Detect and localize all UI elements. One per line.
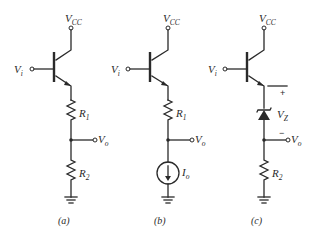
circuit-a: VCC Vi R1 Vo R2 (a): [14, 12, 109, 227]
vo-terminal-c: [286, 138, 290, 142]
io-label-b: Io: [181, 166, 190, 181]
circuit-figure: VCC Vi R1 Vo R2 (a) VCC Vi: [0, 0, 316, 237]
emitter-lead-a: [56, 76, 71, 100]
collector-lead-b: [152, 30, 168, 60]
circuit-c: VCC Vi + VZ − Vo R2 (c): [208, 12, 302, 227]
vo-label-c: Vo: [291, 133, 302, 148]
ground-icon-b: [162, 197, 174, 203]
vcc-label-c: VCC: [259, 12, 277, 27]
r1-label-a: R1: [78, 107, 89, 122]
vi-label-a: Vi: [14, 63, 23, 78]
vi-label-c: Vi: [208, 63, 217, 78]
caption-b: (b): [154, 215, 166, 227]
ground-icon-c: [258, 197, 270, 203]
resistor-r2-c: [260, 140, 268, 197]
vz-label-c: VZ: [277, 108, 289, 123]
caption-c: (c): [251, 215, 263, 227]
current-source-icon-b: [157, 162, 179, 184]
collector-lead-a: [56, 30, 71, 60]
resistor-r2-a: [67, 140, 75, 197]
resistor-r1-b: [164, 100, 172, 140]
vo-label-b: Vo: [195, 133, 206, 148]
zener-diode-icon-c: [257, 108, 271, 120]
r2-label-a: R2: [78, 167, 90, 182]
collector-lead-c: [249, 30, 264, 60]
vz-plus-sign-c: +: [280, 88, 285, 98]
vi-label-b: Vi: [111, 63, 120, 78]
vcc-label-b: VCC: [163, 12, 181, 27]
resistor-r1-a: [67, 100, 75, 140]
vo-terminal-b: [190, 138, 194, 142]
ground-icon-a: [65, 197, 77, 203]
r2-label-c: R2: [271, 167, 283, 182]
caption-a: (a): [58, 215, 70, 227]
vz-minus-sign-c: −: [279, 128, 284, 138]
vo-terminal-a: [93, 138, 97, 142]
emitter-lead-b: [152, 76, 168, 100]
circuit-b: VCC Vi R1 Vo Io (b): [111, 12, 206, 227]
emitter-lead-c: [249, 76, 264, 108]
vcc-label-a: VCC: [65, 12, 83, 27]
vo-label-a: Vo: [98, 133, 109, 148]
r1-label-b: R1: [175, 107, 186, 122]
